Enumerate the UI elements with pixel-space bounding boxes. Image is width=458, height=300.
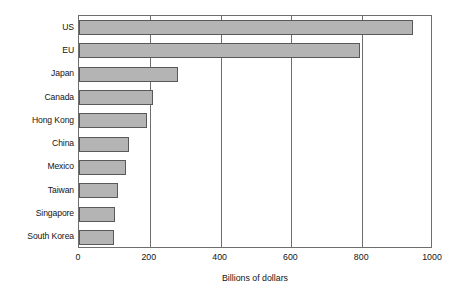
category-label: Canada (0, 92, 74, 102)
bar (79, 207, 115, 222)
category-label: US (0, 22, 74, 32)
category-label: China (0, 138, 74, 148)
x-axis-tick-labels: 02004006008001000 (78, 252, 432, 266)
category-label: Japan (0, 68, 74, 78)
category-label: Singapore (0, 208, 74, 218)
x-tick-label: 200 (141, 252, 156, 263)
bar (79, 90, 153, 105)
category-label: South Korea (0, 231, 74, 241)
category-axis: USEUJapanCanadaHong KongChinaMexicoTaiwa… (0, 15, 74, 248)
x-tick-label: 400 (212, 252, 227, 263)
category-label: EU (0, 45, 74, 55)
bar (79, 20, 413, 35)
x-tick-label: 1000 (422, 252, 442, 263)
plot-area (78, 15, 432, 248)
x-tick-label: 600 (283, 252, 298, 263)
bars-layer (79, 16, 431, 247)
bar-chart: USEUJapanCanadaHong KongChinaMexicoTaiwa… (0, 0, 458, 300)
category-label: Hong Kong (0, 115, 74, 125)
x-tick-label: 800 (354, 252, 369, 263)
bar (79, 137, 129, 152)
category-label: Taiwan (0, 185, 74, 195)
x-tick-label: 0 (76, 252, 81, 263)
bar (79, 160, 126, 175)
x-axis-title: Billions of dollars (78, 273, 432, 284)
bar (79, 113, 147, 128)
bar (79, 230, 114, 245)
category-label: Mexico (0, 161, 74, 171)
bar (79, 183, 118, 198)
bar (79, 67, 178, 82)
bar (79, 43, 360, 58)
